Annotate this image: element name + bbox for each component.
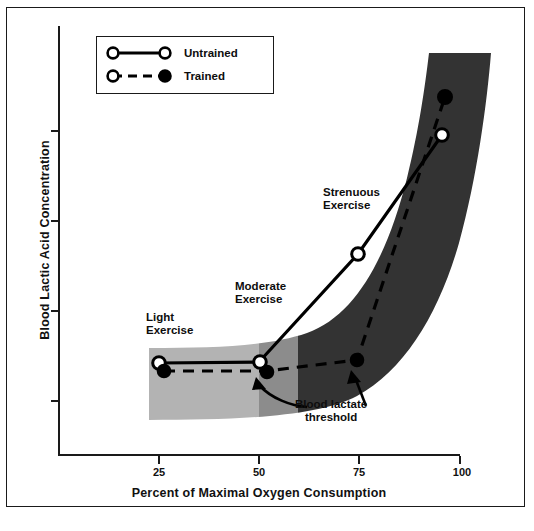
zone-label-strenuous: Strenuous Exercise [323,186,380,212]
legend-swatch-trained [105,68,173,84]
marker-untrained-95 [436,129,449,142]
legend-label-trained: Trained [184,70,225,82]
legend-item-untrained: Untrained [105,43,238,63]
threshold-arrowhead-left [252,377,266,390]
marker-trained-75 [351,354,364,367]
series-line-trained [164,97,445,371]
legend-item-trained: Trained [105,66,225,86]
annotation-blood-lactate-threshold: Blood lactate threshold [295,398,367,424]
legend-swatch-untrained [105,45,173,61]
zone-label-moderate: Moderate Exercise [235,280,286,306]
threshold-arrowhead-right [347,370,361,384]
series-line-untrained [159,135,442,363]
legend-box: Untrained Trained [96,36,274,94]
legend-label-untrained: Untrained [184,47,238,59]
zone-label-light: Light Exercise [146,311,193,337]
marker-trained-25 [158,365,171,378]
marker-trained-96 [438,90,452,104]
marker-trained-50 [261,366,274,379]
marker-untrained-75 [352,248,365,261]
figure-frame: 25 50 75 100 Percent of Maximal Oxygen C… [6,7,525,507]
